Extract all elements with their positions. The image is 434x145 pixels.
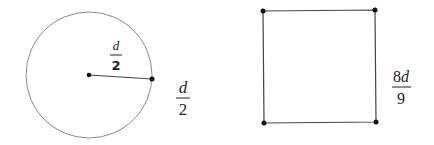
radius-label-outer: d 2 bbox=[176, 78, 190, 119]
inner-denominator: 2 bbox=[111, 58, 120, 73]
corner-dot-bottom-right bbox=[374, 120, 379, 125]
square-outline bbox=[263, 10, 376, 123]
corner-dot-bottom-left bbox=[262, 121, 267, 126]
side-denominator: 9 bbox=[397, 90, 405, 107]
outer-denominator: 2 bbox=[179, 100, 188, 119]
corner-dot-top-left bbox=[261, 9, 266, 14]
radius-label-inner: d 2 bbox=[110, 38, 122, 73]
side-numerator: 8d bbox=[393, 68, 410, 85]
radius-endpoint-dot bbox=[150, 77, 155, 82]
corner-dot-top-right bbox=[373, 8, 378, 13]
outer-numerator: d bbox=[179, 78, 188, 97]
circle-figure bbox=[26, 12, 155, 138]
radius-line bbox=[89, 75, 152, 79]
diagram-canvas: d 2 d 2 8d 9 bbox=[0, 0, 434, 145]
side-label: 8d 9 bbox=[392, 68, 411, 107]
side-numerator-text: 8 bbox=[393, 68, 401, 85]
square-figure bbox=[261, 8, 379, 126]
center-dot bbox=[87, 73, 92, 78]
inner-numerator: d bbox=[113, 38, 120, 53]
